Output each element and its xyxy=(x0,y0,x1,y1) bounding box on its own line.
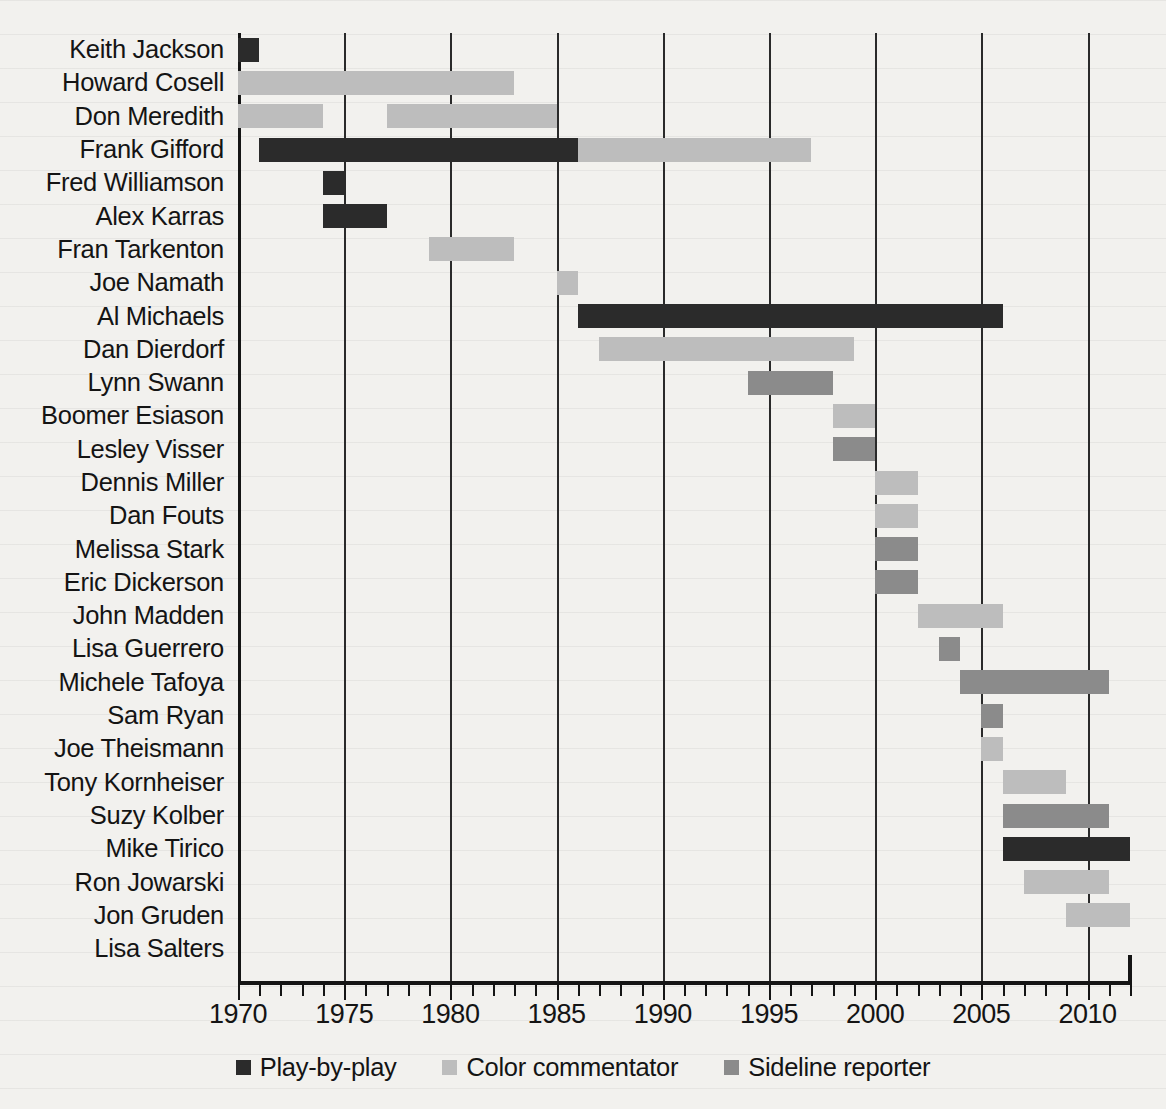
bar-john-madden-color xyxy=(918,604,1003,628)
category-label: Ron Jowarski xyxy=(0,865,231,898)
category-label: Fred Williamson xyxy=(0,166,231,199)
tick-1995 xyxy=(769,985,771,1000)
category-label: Jon Gruden xyxy=(0,899,231,932)
bar-lesley-visser-sideline xyxy=(833,437,875,461)
legend-item-sideline: Sideline reporter xyxy=(724,1053,930,1082)
bar-don-meredith-color xyxy=(238,104,323,128)
tick-1978 xyxy=(408,985,410,996)
x-tick-label-2010: 2010 xyxy=(1058,999,1116,1030)
tick-2011 xyxy=(1109,985,1111,996)
bar-michele-tafoya-sideline xyxy=(960,670,1109,694)
category-label: Sam Ryan xyxy=(0,699,231,732)
tick-2007 xyxy=(1024,985,1026,996)
tick-2009 xyxy=(1066,985,1068,996)
x-tick-label-1980: 1980 xyxy=(421,999,479,1030)
tick-2002 xyxy=(918,985,920,996)
tick-1983 xyxy=(514,985,516,996)
tick-1980 xyxy=(450,985,452,1000)
legend-swatch-color-icon xyxy=(442,1060,457,1075)
bar-boomer-esiason-color xyxy=(833,404,875,428)
bar-dennis-miller-color xyxy=(875,471,917,495)
chart-legend: Play-by-playColor commentatorSideline re… xyxy=(0,1053,1166,1082)
bar-ron-jowarski-color xyxy=(1024,870,1109,894)
tick-1979 xyxy=(429,985,431,996)
legend-item-color: Color commentator xyxy=(442,1053,678,1082)
bar-joe-theismann-color xyxy=(981,737,1002,761)
tick-1999 xyxy=(854,985,856,996)
category-label: Don Meredith xyxy=(0,100,231,133)
tick-2000 xyxy=(875,985,877,1000)
tick-1972 xyxy=(280,985,282,996)
bar-joe-namath-color xyxy=(557,271,578,295)
x-tick-label-1970: 1970 xyxy=(209,999,267,1030)
category-label: Alex Karras xyxy=(0,199,231,232)
bar-fran-tarkenton-color xyxy=(429,237,514,261)
legend-item-pbp: Play-by-play xyxy=(236,1053,397,1082)
bar-howard-cosell-color xyxy=(238,71,514,95)
tick-1974 xyxy=(323,985,325,996)
tick-1971 xyxy=(259,985,261,996)
legend-label: Play-by-play xyxy=(260,1053,397,1082)
category-label-column: Keith JacksonHoward CosellDon MeredithFr… xyxy=(0,33,231,965)
tick-1981 xyxy=(472,985,474,996)
bar-dan-fouts-color xyxy=(875,504,917,528)
x-tick-label-2005: 2005 xyxy=(952,999,1010,1030)
x-tick-label-1975: 1975 xyxy=(315,999,373,1030)
bar-sam-ryan-sideline xyxy=(981,704,1002,728)
plot-area xyxy=(238,33,1130,965)
bar-keith-jackson-pbp xyxy=(238,38,259,62)
bar-alex-karras-pbp xyxy=(323,204,387,228)
tick-1976 xyxy=(365,985,367,996)
category-label: Melissa Stark xyxy=(0,532,231,565)
tick-1998 xyxy=(833,985,835,996)
category-label: Mike Tirico xyxy=(0,832,231,865)
category-label: Dan Dierdorf xyxy=(0,333,231,366)
bar-don-meredith-color xyxy=(387,104,557,128)
category-label: Lesley Visser xyxy=(0,433,231,466)
legend-swatch-sideline-icon xyxy=(724,1060,739,1075)
x-tick-label-1990: 1990 xyxy=(634,999,692,1030)
category-label: Frank Gifford xyxy=(0,133,231,166)
broadcaster-timeline-chart: Keith JacksonHoward CosellDon MeredithFr… xyxy=(0,0,1166,1109)
category-label: Michele Tafoya xyxy=(0,666,231,699)
tick-1997 xyxy=(811,985,813,996)
bar-jon-gruden-color xyxy=(1066,903,1130,927)
tick-1975 xyxy=(344,985,346,1000)
x-tick-label-2000: 2000 xyxy=(846,999,904,1030)
tick-2001 xyxy=(896,985,898,996)
tick-2008 xyxy=(1045,985,1047,996)
category-label: Howard Cosell xyxy=(0,66,231,99)
category-label: John Madden xyxy=(0,599,231,632)
legend-label: Color commentator xyxy=(466,1053,678,1082)
bar-fred-williamson-pbp xyxy=(323,171,344,195)
category-label: Lisa Salters xyxy=(0,932,231,965)
bar-al-michaels-pbp xyxy=(578,304,1003,328)
tick-2004 xyxy=(960,985,962,996)
category-label: Boomer Esiason xyxy=(0,399,231,432)
category-label: Dennis Miller xyxy=(0,466,231,499)
category-label: Joe Theismann xyxy=(0,732,231,765)
tick-1992 xyxy=(705,985,707,996)
tick-1990 xyxy=(663,985,665,1000)
tick-1970 xyxy=(238,985,240,1000)
tick-1991 xyxy=(684,985,686,996)
bar-tony-kornheiser-color xyxy=(1003,770,1067,794)
tick-2010 xyxy=(1088,985,1090,1000)
tick-1982 xyxy=(493,985,495,996)
tick-1984 xyxy=(535,985,537,996)
x-axis-end-cap xyxy=(1128,955,1132,985)
category-label: Joe Namath xyxy=(0,266,231,299)
bar-dan-dierdorf-color xyxy=(599,337,854,361)
category-label: Dan Fouts xyxy=(0,499,231,532)
tick-1985 xyxy=(557,985,559,1000)
bar-lynn-swann-sideline xyxy=(748,371,833,395)
tick-2005 xyxy=(981,985,983,1000)
category-label: Fran Tarkenton xyxy=(0,233,231,266)
tick-1993 xyxy=(726,985,728,996)
tick-1988 xyxy=(620,985,622,996)
bar-suzy-kolber-sideline xyxy=(1003,804,1109,828)
x-axis-tick-labels: 197019751980198519901995200020052010 xyxy=(0,999,1166,1039)
tick-1994 xyxy=(748,985,750,996)
category-label: Suzy Kolber xyxy=(0,799,231,832)
tick-1987 xyxy=(599,985,601,996)
